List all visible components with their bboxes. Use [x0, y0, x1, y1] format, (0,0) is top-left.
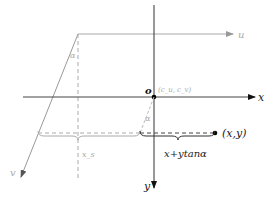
xs-label: x_s [82, 150, 95, 159]
brace-xs [38, 131, 140, 140]
origin-label: o [145, 85, 152, 96]
v-axis-label: v [10, 167, 16, 178]
brace-offset [140, 131, 215, 140]
coordinate-diagram: x y u v o (c_u, c_v) α α (x,y) x+ytanα x… [0, 0, 275, 198]
x-axis-label: x [258, 91, 265, 104]
offset-label: x+ytanα [164, 148, 207, 159]
center-label: (c_u, c_v) [158, 86, 191, 94]
point-label: (x,y) [222, 127, 247, 140]
alpha-top-label: α [70, 51, 76, 60]
y-axis-label: y [143, 180, 151, 193]
diagram-svg: x y u v o (c_u, c_v) α α (x,y) x+ytanα x… [0, 0, 275, 198]
alpha-bottom-label: α [145, 114, 151, 123]
u-axis-label: u [238, 29, 244, 40]
